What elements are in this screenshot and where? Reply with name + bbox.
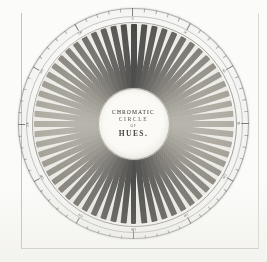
title-line-chromatic: CHROMATIC bbox=[112, 109, 155, 116]
title-line-circle: CIRCLE bbox=[119, 116, 149, 124]
title-line-hues: HUES. bbox=[119, 129, 149, 138]
chromatic-circle-plate: 0306090120150180210240270300330 CHROMATI… bbox=[18, 8, 249, 239]
page-margin-rule-right bbox=[258, 13, 259, 249]
page-margin-rule-bottom bbox=[21, 248, 259, 249]
scanned-page: 0306090120150180210240270300330 CHROMATI… bbox=[0, 0, 267, 262]
center-title-disc: CHROMATIC CIRCLE OF HUES. bbox=[98, 88, 170, 160]
